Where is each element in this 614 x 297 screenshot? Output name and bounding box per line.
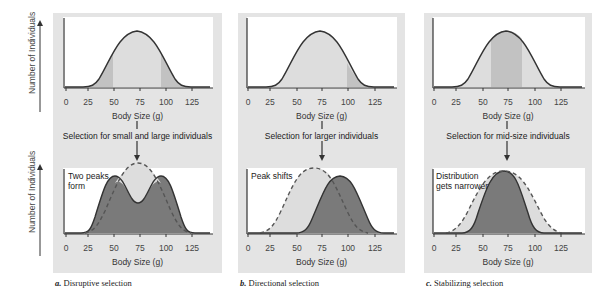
- x-tick: 125: [180, 243, 204, 253]
- x-tick: 25: [444, 243, 468, 253]
- x-tick: 100: [523, 243, 547, 253]
- annotation-line: Peak shifts: [251, 171, 293, 181]
- chart-after-disruptive: [53, 13, 222, 273]
- panel-stabilizing: 0 25 50 75 100 125 Body Size (g) Selecti…: [424, 13, 592, 273]
- x-tick: 50: [102, 243, 126, 253]
- annotation-line: Two peaks: [68, 171, 109, 181]
- x-tick: 0: [422, 243, 446, 253]
- x-tick: 25: [76, 243, 100, 253]
- caption-directional: b. Directional selection: [240, 278, 319, 288]
- x-tick: 100: [336, 243, 360, 253]
- x-tick: 50: [471, 243, 495, 253]
- x-tick: 125: [549, 243, 573, 253]
- annotation-line: form: [68, 181, 109, 191]
- x-tick: 25: [258, 243, 282, 253]
- annotation-line: gets narrower: [436, 181, 488, 191]
- annotation: Distribution gets narrower: [436, 171, 488, 191]
- chart-after-directional: [238, 13, 405, 273]
- annotation: Two peaks form: [68, 171, 109, 191]
- x-tick: 0: [236, 243, 260, 253]
- x-tick: 0: [54, 243, 78, 253]
- panel-disruptive: 0 25 50 75 100 125 Body Size (g) Selecti…: [53, 13, 222, 273]
- y-axis-arrow-top: [39, 20, 41, 112]
- x-axis-label: Body Size (g): [238, 257, 405, 267]
- panel-directional: 0 25 50 75 100 125 Body Size (g) Selecti…: [238, 13, 405, 273]
- caption-letter: c.: [426, 278, 432, 288]
- x-tick: 100: [154, 243, 178, 253]
- caption-letter: a.: [55, 278, 61, 288]
- x-tick: 75: [128, 243, 152, 253]
- x-tick: 50: [285, 243, 309, 253]
- caption-text: Directional selection: [249, 278, 320, 288]
- caption-letter: b.: [240, 278, 246, 288]
- x-tick: 75: [496, 243, 520, 253]
- caption-text: Stabilizing selection: [434, 278, 503, 288]
- y-axis-arrow-bottom: [39, 164, 41, 256]
- x-axis-label: Body Size (g): [424, 257, 592, 267]
- caption-disruptive: a. Disruptive selection: [55, 278, 132, 288]
- x-axis-label: Body Size (g): [53, 257, 222, 267]
- annotation: Peak shifts: [251, 171, 293, 181]
- caption-stabilizing: c. Stabilizing selection: [426, 278, 503, 288]
- chart-after-stabilizing: [424, 13, 592, 273]
- x-tick: 75: [310, 243, 334, 253]
- x-tick: 125: [363, 243, 387, 253]
- annotation-line: Distribution: [436, 171, 488, 181]
- caption-text: Disruptive selection: [64, 278, 132, 288]
